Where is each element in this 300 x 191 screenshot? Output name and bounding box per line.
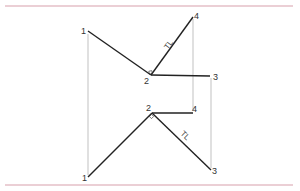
top-label-4: 4: [194, 11, 199, 21]
top-label-3: 3: [213, 72, 218, 82]
bottom-label-1: 1: [82, 173, 87, 183]
top-segment-1-2: [88, 31, 151, 75]
top-view: 1 2 3 4 TL: [81, 11, 218, 86]
projection-diagram: 1 2 3 4 TL 1 2 3 4 TL: [0, 0, 300, 191]
top-label-2: 2: [144, 76, 149, 86]
top-label-1: 1: [81, 26, 86, 36]
bottom-label-4: 4: [192, 104, 197, 114]
top-segment-2-3: [151, 75, 210, 76]
bottom-view: 1 2 3 4 TL: [82, 103, 217, 183]
bottom-segment-1-2: [88, 113, 152, 177]
bottom-segment-2-3: [152, 113, 211, 170]
right-angle-mark: [149, 71, 152, 74]
top-true-length-label: TL: [162, 38, 175, 51]
bottom-label-3: 3: [212, 166, 217, 176]
bottom-label-2: 2: [146, 103, 151, 113]
